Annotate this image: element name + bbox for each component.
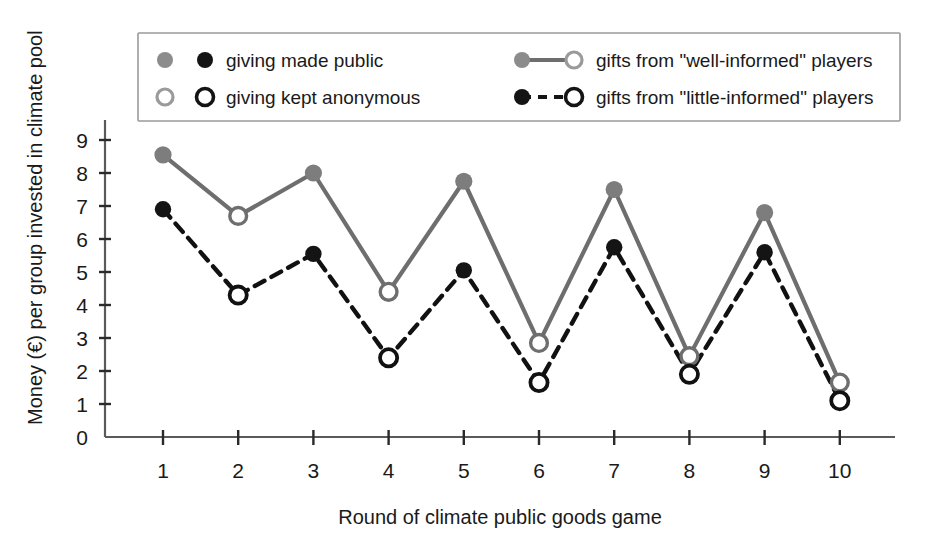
data-point [530, 374, 547, 391]
data-point [681, 348, 698, 365]
data-point [154, 146, 171, 163]
legend-label-giving-made-public: giving made public [226, 50, 383, 71]
data-point [606, 181, 623, 198]
y-tick-label-7: 7 [76, 195, 88, 218]
y-tick-label-6: 6 [76, 228, 88, 251]
series-markers [154, 146, 848, 409]
legend-label-giving-kept-anonymous: giving kept anonymous [226, 87, 420, 108]
data-point [380, 349, 397, 366]
x-tick-label-7: 7 [608, 459, 620, 482]
legend-label-well-informed: gifts from "well-informed" players [596, 50, 872, 71]
y-tick-label-4: 4 [76, 294, 88, 317]
data-point [305, 164, 322, 181]
legend-swatch-well-informed-open [566, 52, 582, 68]
x-tick-label-3: 3 [308, 459, 320, 482]
data-point [305, 246, 321, 262]
x-tick-label-1: 1 [157, 459, 169, 482]
data-point [230, 287, 247, 304]
x-tick-label-4: 4 [383, 459, 395, 482]
data-point [831, 392, 848, 409]
data-point [380, 283, 397, 300]
legend-swatch-well-informed-filled [514, 52, 530, 68]
y-tick-label-8: 8 [76, 162, 88, 185]
x-tick-label-10: 10 [828, 459, 851, 482]
x-tick-label-9: 9 [759, 459, 771, 482]
x-axis-tick-labels: 12345678910 [157, 459, 851, 482]
series-line-0 [163, 155, 840, 383]
data-point [456, 262, 472, 278]
data-point [756, 244, 772, 260]
series-line-1 [163, 209, 840, 400]
legend-swatch-gray-open-circle [157, 89, 173, 105]
legend-swatch-little-informed-open [566, 89, 583, 106]
legend-swatch-little-informed-filled [514, 89, 530, 105]
x-axis-title: Round of climate public goods game [338, 506, 662, 528]
line-chart-canvas: 0123456789 12345678910 Money (€) per gro… [0, 0, 944, 559]
data-point [831, 374, 848, 391]
data-point [681, 366, 698, 383]
legend-swatch-black-open-circle [197, 89, 214, 106]
legend-label-little-informed: gifts from "little-informed" players [596, 87, 873, 108]
legend-swatch-black-filled-circle [197, 52, 213, 68]
y-axis-title: Money (€) per group invested in climate … [24, 30, 46, 425]
y-tick-label-1: 1 [76, 393, 88, 416]
x-tick-label-5: 5 [458, 459, 470, 482]
data-point [455, 173, 472, 190]
data-point [756, 204, 773, 221]
x-tick-label-8: 8 [684, 459, 696, 482]
x-tick-label-2: 2 [232, 459, 244, 482]
series-lines [163, 155, 840, 401]
data-point [606, 239, 622, 255]
y-tick-label-9: 9 [76, 129, 88, 152]
chart-legend: giving made public giving kept anonymous… [138, 33, 900, 121]
y-tick-label-2: 2 [76, 360, 88, 383]
y-tick-label-0: 0 [76, 426, 88, 449]
legend-swatch-gray-filled-circle [157, 52, 173, 68]
data-point [230, 208, 247, 225]
y-axis-tick-labels: 0123456789 [76, 129, 88, 449]
y-tick-label-3: 3 [76, 327, 88, 350]
x-tick-label-6: 6 [533, 459, 545, 482]
data-point [155, 201, 171, 217]
data-point [531, 335, 548, 352]
y-tick-label-5: 5 [76, 261, 88, 284]
chart-figure: 0123456789 12345678910 Money (€) per gro… [0, 0, 944, 559]
